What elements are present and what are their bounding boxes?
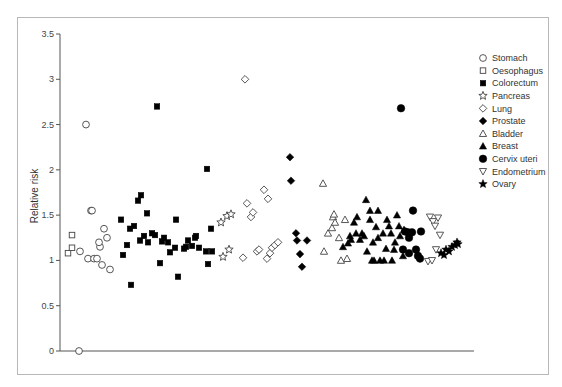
triangle-marker-icon [379, 230, 386, 236]
triangle-marker-icon [320, 248, 327, 254]
triangle-marker-icon [337, 257, 344, 263]
square-marker-icon [189, 243, 195, 249]
axes: 00.511.522.533.5 [41, 29, 474, 356]
square-marker-icon [159, 239, 165, 245]
legend-item: Stomach [480, 53, 528, 63]
square-marker-icon [203, 249, 209, 255]
circle-marker-icon [416, 255, 424, 263]
triangle-down-legend-icon [479, 169, 486, 175]
star-marker-icon [225, 245, 233, 253]
circle-marker-icon [397, 104, 405, 112]
triangle-marker-icon [395, 222, 402, 228]
circle-legend-icon [479, 155, 487, 163]
diamond-marker-icon [298, 263, 306, 271]
triangle-marker-icon [374, 207, 381, 213]
square-marker-icon [144, 211, 150, 217]
circle-marker-icon [99, 262, 106, 269]
square-marker-icon [205, 261, 211, 267]
legend-label: Lung [492, 104, 512, 114]
y-tick-label: 2.5 [41, 120, 54, 130]
legend-label: Ovary [492, 179, 517, 189]
square-marker-icon [65, 250, 71, 256]
legend-label: Pancreas [492, 91, 531, 101]
square-marker-icon [167, 250, 173, 256]
y-tick-label: 0 [49, 346, 54, 356]
square-legend-icon [480, 80, 486, 86]
diamond-legend-icon [479, 105, 487, 113]
square-marker-icon [204, 166, 210, 172]
series-endometrium [424, 214, 443, 265]
triangle-marker-icon [385, 222, 392, 228]
circle-marker-icon [89, 207, 96, 214]
square-marker-icon [135, 198, 141, 204]
circle-legend-icon [480, 55, 487, 62]
legend-label: Cervix uteri [492, 154, 538, 164]
circle-marker-icon [77, 248, 84, 255]
series-breast [339, 196, 407, 263]
legend-item: Lung [479, 104, 512, 114]
legend-item: Ovary [479, 179, 517, 189]
circle-marker-icon [83, 121, 90, 128]
triangle-marker-icon [382, 245, 389, 251]
circle-marker-icon [107, 266, 114, 273]
circle-marker-icon [408, 229, 416, 237]
series-oesophagus [65, 232, 75, 256]
legend-item: Bladder [479, 129, 523, 139]
y-tick-label: 2 [49, 165, 54, 175]
square-marker-icon [138, 192, 144, 198]
triangle-marker-icon [343, 255, 350, 261]
circle-marker-icon [409, 207, 417, 215]
star-legend-icon [479, 180, 487, 188]
legend-label: Colorectum [492, 78, 538, 88]
square-marker-icon [69, 232, 75, 238]
square-marker-icon [183, 244, 189, 250]
series-colorectum [118, 104, 215, 288]
triangle-marker-icon [330, 211, 337, 217]
legend-item: Cervix uteri [479, 154, 537, 164]
series-prostate [286, 153, 311, 270]
y-tick-label: 1 [49, 255, 54, 265]
square-marker-icon [69, 245, 75, 251]
legend-label: Oesophagus [492, 66, 544, 76]
diamond-marker-icon [303, 237, 311, 245]
square-marker-icon [175, 274, 181, 280]
circle-marker-icon [96, 239, 103, 246]
square-marker-icon [118, 217, 124, 223]
series-stomach [76, 121, 114, 354]
triangle-marker-icon [335, 234, 342, 240]
circle-marker-icon [417, 228, 425, 236]
triangle-marker-icon [390, 246, 397, 252]
triangle-marker-icon [362, 196, 369, 202]
square-marker-icon [124, 242, 130, 248]
circle-marker-icon [94, 255, 101, 262]
triangle-marker-icon [352, 230, 359, 236]
square-marker-icon [145, 240, 151, 246]
triangle-marker-icon [366, 207, 373, 213]
square-marker-icon [196, 245, 202, 251]
scatter-chart: 00.511.522.533.5 StomachOesophagusColore… [0, 0, 562, 387]
triangle-marker-icon [363, 248, 370, 254]
diamond-legend-icon [479, 117, 487, 125]
square-marker-icon [141, 233, 147, 239]
legend-label: Stomach [492, 53, 528, 63]
square-marker-icon [193, 233, 199, 239]
square-marker-icon [157, 260, 163, 266]
triangle-marker-icon [383, 216, 390, 222]
square-marker-icon [120, 252, 126, 258]
square-marker-icon [131, 223, 137, 229]
legend-label: Breast [492, 141, 519, 151]
circle-marker-icon [76, 348, 83, 355]
triangle-marker-icon [341, 216, 348, 222]
circle-marker-icon [104, 234, 111, 241]
legend-item: Breast [479, 141, 518, 151]
legend-label: Prostate [492, 116, 526, 126]
triangle-marker-icon [391, 239, 398, 245]
square-marker-icon [165, 240, 171, 246]
star-marker-icon [217, 218, 225, 226]
legend-item: Oesophagus [480, 66, 543, 76]
legend-label: Endometrium [492, 167, 546, 177]
triangle-marker-icon [393, 212, 400, 218]
diamond-marker-icon [293, 237, 301, 245]
legend-item: Pancreas [479, 91, 531, 101]
square-marker-icon [173, 217, 179, 223]
